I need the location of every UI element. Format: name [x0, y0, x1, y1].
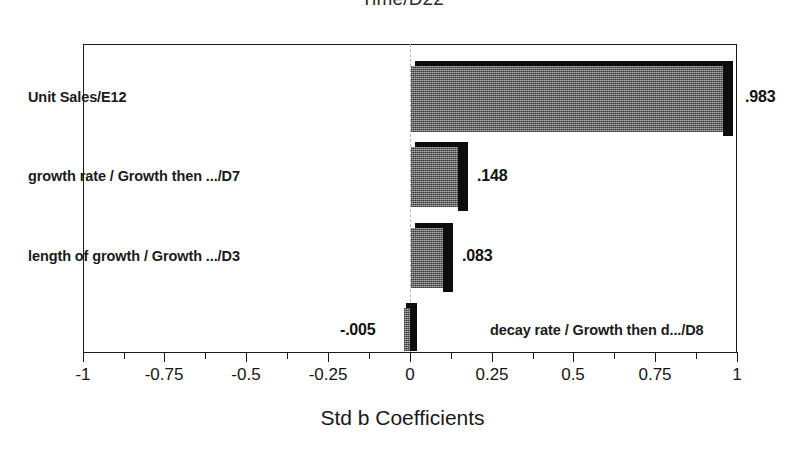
bar-shadow-side — [723, 61, 733, 136]
chart-screenshot: Time/D22 Unit Sales/E12 .983 growth rate… — [0, 0, 805, 450]
category-label-length-of-growth: length of growth / Growth .../D3 — [28, 248, 240, 264]
x-tick-label: -0.25 — [309, 365, 348, 385]
bar-length-of-growth[interactable] — [411, 228, 443, 288]
x-tick-major — [492, 352, 493, 362]
x-tick-minor — [205, 352, 206, 359]
x-tick-minor — [369, 352, 370, 359]
category-label-decay-rate: decay rate / Growth then d.../D8 — [490, 322, 704, 338]
category-label-unit-sales: Unit Sales/E12 — [28, 89, 127, 105]
x-tick-minor — [451, 352, 452, 359]
bar-shadow-side — [443, 223, 453, 292]
x-tick-label: -0.75 — [145, 365, 184, 385]
bar-shadow-side — [458, 142, 468, 211]
x-tick-major — [655, 352, 656, 362]
bar-decay-rate[interactable] — [404, 308, 410, 351]
category-label-growth-rate: growth rate / Growth then .../D7 — [28, 168, 240, 184]
chart-title: Time/D22 — [0, 0, 805, 10]
x-tick-minor — [533, 352, 534, 359]
x-tick-label: 0 — [405, 365, 414, 385]
x-tick-minor — [614, 352, 615, 359]
x-tick-major — [737, 352, 738, 362]
x-tick-major — [410, 352, 411, 362]
value-label-length-of-growth: .083 — [462, 247, 492, 265]
value-label-unit-sales: .983 — [745, 88, 775, 106]
x-tick-label: 0.5 — [561, 365, 585, 385]
x-tick-label: 1 — [732, 365, 741, 385]
x-tick-label: 0.25 — [475, 365, 508, 385]
x-tick-minor — [696, 352, 697, 359]
value-label-growth-rate: .148 — [477, 167, 507, 185]
bar-unit-sales[interactable] — [411, 66, 723, 132]
x-tick-major — [573, 352, 574, 362]
x-tick-major — [83, 352, 84, 362]
x-tick-label: -0.5 — [231, 365, 260, 385]
x-tick-label: -1 — [75, 365, 90, 385]
x-tick-minor — [287, 352, 288, 359]
x-tick-major — [164, 352, 165, 362]
x-axis-title: Std b Coefficients — [0, 406, 805, 430]
bar-growth-rate[interactable] — [411, 147, 458, 207]
x-tick-label: 0.75 — [638, 365, 671, 385]
value-label-decay-rate: -.005 — [340, 321, 375, 339]
x-tick-major — [328, 352, 329, 362]
x-tick-minor — [124, 352, 125, 359]
x-tick-major — [246, 352, 247, 362]
